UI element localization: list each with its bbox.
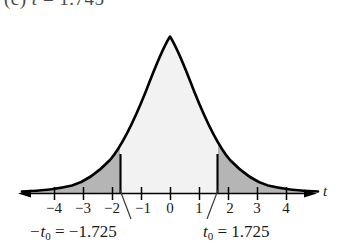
right-critical-value: 1.725	[231, 222, 269, 241]
right-critical-equals: =	[213, 222, 231, 241]
shaded-regions	[22, 37, 318, 193]
axis-label-t: t	[323, 183, 327, 200]
left-critical-symbol: −t	[29, 222, 45, 241]
axis-tick-label--4: −4	[41, 200, 67, 217]
left-critical-value: −1.725	[69, 222, 117, 241]
left-critical-equals: =	[51, 222, 69, 241]
axis-tick-label--2: −2	[99, 200, 125, 217]
axis-tick-label-4: 4	[273, 200, 299, 217]
axis-tick-label-1: 1	[186, 200, 212, 217]
axis-tick-label--1: −1	[130, 200, 156, 217]
axis-tick-label-2: 2	[217, 200, 243, 217]
center-non-rejection-region-fill	[22, 37, 318, 193]
axis-tick-label--3: −3	[70, 200, 96, 217]
t-distribution-figure: (c) t = 1.745	[0, 0, 341, 248]
left-critical-value-label: −t0 = −1.725	[29, 222, 117, 242]
axis-tick-label-0: 0	[157, 200, 183, 217]
axis-tick-label-3: 3	[244, 200, 270, 217]
right-critical-value-label: t0 = 1.725	[203, 222, 270, 242]
